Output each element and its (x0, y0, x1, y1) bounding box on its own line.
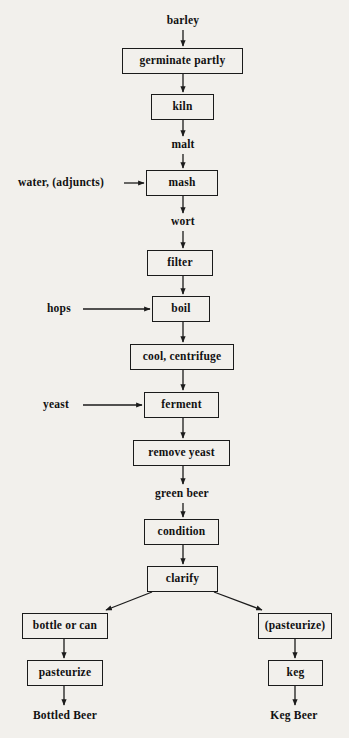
brewing-flowchart: barleygerminate partlykilnmaltwater, (ad… (0, 0, 349, 738)
flow-arrow-clarify-to-pasteurize-right (214, 592, 262, 610)
process-box-boil: boil (152, 296, 210, 322)
process-box-condition: condition (144, 519, 219, 545)
process-box-pasteurize-left: pasteurize (27, 660, 103, 686)
process-box-remove-yeast: remove yeast (133, 440, 230, 466)
process-box-kiln: kiln (151, 94, 214, 120)
process-box-clarify: clarify (147, 566, 218, 592)
flow-label-bottled-beer: Bottled Beer (28, 709, 102, 723)
process-box-cool-centrifuge: cool, centrifuge (130, 344, 234, 370)
flow-label-green-beer: green beer (150, 487, 214, 501)
process-box-pasteurize-right: (pasteurize) (258, 613, 332, 639)
process-box-mash: mash (146, 170, 218, 196)
flow-label-barley: barley (157, 14, 209, 28)
process-box-filter: filter (147, 250, 213, 276)
flow-label-yeast: yeast (43, 398, 81, 412)
process-box-keg: keg (268, 660, 323, 686)
flow-label-keg-beer: Keg Beer (264, 709, 324, 723)
flow-label-wort: wort (163, 215, 203, 229)
flow-label-malt: malt (163, 138, 203, 152)
flow-label-water-adjuncts: water, (adjuncts) (18, 176, 122, 190)
process-box-germinate-partly: germinate partly (122, 48, 243, 74)
process-box-ferment: ferment (144, 392, 219, 418)
process-box-bottle-or-can: bottle or can (22, 613, 108, 639)
flow-label-hops: hops (47, 302, 81, 316)
flow-arrow-clarify-to-bottle-or-can (106, 592, 152, 610)
